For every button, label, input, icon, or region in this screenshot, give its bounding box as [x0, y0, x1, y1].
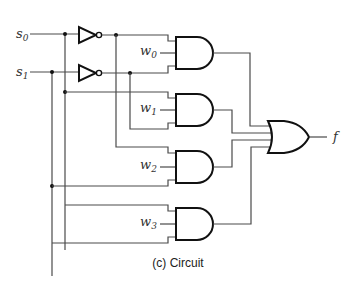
data-label-w2: w2 — [140, 157, 157, 174]
wire-not-s1 — [102, 66, 176, 73]
wire-and0-out — [213, 53, 270, 126]
wire-s0-to-and1 — [65, 92, 176, 98]
wire-and1-out — [213, 110, 272, 133]
and-gate-2 — [176, 151, 213, 183]
wire-s1-to-and2 — [52, 180, 176, 186]
figure-caption: (c) Circuit — [0, 256, 356, 270]
data-label-w3: w3 — [140, 214, 157, 231]
wire-s1-to-and3 — [52, 237, 176, 243]
wire-not-s1-to-and1 — [130, 73, 176, 129]
wire-s0-to-and3 — [65, 205, 176, 211]
not-gate-s0 — [79, 27, 102, 43]
junction-dot — [50, 70, 54, 74]
not-gate-s1 — [79, 65, 102, 81]
wire-and2-out — [213, 140, 272, 167]
input-label-s1: s1 — [16, 64, 28, 81]
or-gate — [268, 121, 309, 153]
data-label-w0: w0 — [140, 43, 157, 60]
input-label-s0: s0 — [16, 26, 29, 43]
and-gate-1 — [176, 94, 213, 126]
and-gate-3 — [176, 208, 213, 240]
junction-dot — [63, 32, 67, 36]
and-gate-0 — [176, 37, 213, 69]
wire-not-s0 — [102, 35, 176, 41]
output-label-f: f — [332, 129, 340, 144]
data-label-w1: w1 — [140, 100, 157, 117]
mux-circuit-diagram: s0 s1 w0 w1 w2 w3 — [0, 0, 356, 284]
wire-and3-out — [213, 147, 270, 224]
